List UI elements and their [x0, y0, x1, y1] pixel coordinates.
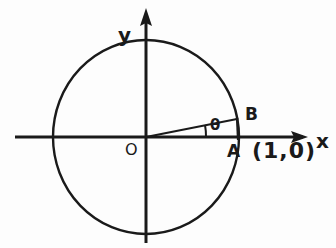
- unit-circle-figure: y x O A B (1,0) θ: [0, 0, 336, 248]
- origin-label: O: [125, 142, 138, 158]
- point-a-marker: [237, 136, 240, 139]
- point-b-label: B: [245, 106, 258, 123]
- point-a-coordinate-label: (1,0): [252, 140, 316, 162]
- figure-canvas: [0, 0, 336, 248]
- y-axis-label: y: [118, 25, 131, 45]
- point-a-label: A: [227, 143, 240, 160]
- angle-arc-theta: [205, 125, 206, 137]
- x-axis-label: x: [316, 131, 329, 151]
- angle-theta-label: θ: [210, 118, 220, 133]
- point-b-marker: [236, 118, 239, 121]
- ray-origin-to-b: [146, 119, 237, 137]
